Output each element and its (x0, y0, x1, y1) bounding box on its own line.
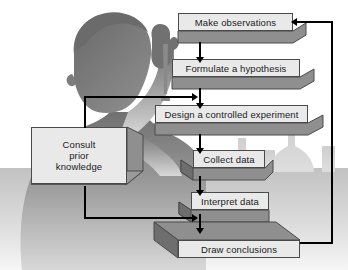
node-face: Formulate a hypothesis (172, 59, 300, 77)
connector-feedback-bottom (300, 242, 333, 244)
connector-feedback-top (297, 21, 333, 23)
beaker-tall-icon (322, 146, 335, 172)
scientific-method-diagram: Make observations Formulate a hypothesis… (0, 0, 348, 270)
node-label: Collect data (203, 154, 254, 165)
connector-feedback-right (331, 21, 333, 244)
connector-consult-up-horizontal (84, 96, 194, 98)
connector-consult-down-vertical (84, 186, 86, 219)
node-label-line-2: prior (69, 150, 89, 161)
node-label: Make observations (195, 17, 276, 28)
node-face: Consult prior knowledge (31, 127, 127, 184)
arrowhead-consult-to-design (192, 93, 198, 101)
node-label: Interpret data (201, 196, 259, 207)
arrowhead-to-design (196, 103, 204, 109)
node-label: Design a controlled experiment (165, 109, 299, 120)
connector-consult-up-vertical (84, 96, 86, 128)
arrowhead-consult-to-conclusions (192, 214, 198, 222)
node-face: Design a controlled experiment (155, 105, 308, 123)
arrowhead-to-conclusions (196, 228, 204, 234)
node-draw-conclusions[interactable]: Draw conclusions (178, 240, 300, 258)
node-formulate-hypothesis[interactable]: Formulate a hypothesis (172, 59, 300, 77)
node-face: Make observations (178, 13, 293, 31)
connector-consult-down-horizontal (84, 217, 194, 219)
node-label-line-1: Consult (63, 139, 96, 150)
arrowhead-feedback-to-observations (291, 18, 297, 26)
node-label: Draw conclusions (201, 244, 277, 255)
arrowhead-to-interpret (196, 190, 204, 196)
arrowhead-to-hypothesis (196, 57, 204, 63)
node-design-experiment[interactable]: Design a controlled experiment (155, 105, 308, 123)
node-label-line-3: knowledge (56, 161, 102, 172)
node-face: Draw conclusions (178, 240, 300, 258)
node-make-observations[interactable]: Make observations (178, 13, 293, 31)
node-consult-prior-knowledge[interactable]: Consult prior knowledge (31, 127, 127, 184)
arrowhead-to-collect (196, 148, 204, 154)
node-label: Formulate a hypothesis (186, 63, 287, 74)
